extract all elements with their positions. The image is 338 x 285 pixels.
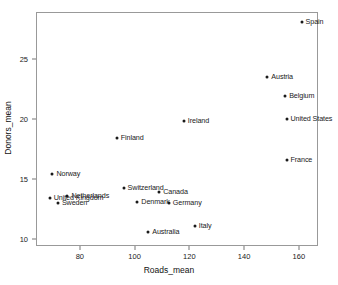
y-tick-label: 25	[12, 54, 28, 63]
x-tick-label: 120	[183, 252, 196, 261]
x-tick-label: 80	[76, 252, 84, 261]
data-point	[51, 173, 54, 176]
data-point-label: Canada	[163, 188, 188, 195]
x-tick-label: 160	[293, 252, 306, 261]
data-point	[122, 187, 125, 190]
y-tick	[32, 238, 36, 239]
data-point-label: Spain	[306, 18, 324, 25]
x-tick-label: 140	[238, 252, 251, 261]
data-point	[147, 230, 150, 233]
x-tick	[189, 246, 190, 250]
data-point	[115, 137, 118, 140]
data-point-label: United States	[291, 115, 333, 122]
data-point	[193, 224, 196, 227]
y-tick-label: 20	[12, 114, 28, 123]
data-point-label: Belgium	[289, 92, 314, 99]
y-tick-label: 15	[12, 174, 28, 183]
x-tick	[298, 246, 299, 250]
data-point-label: Norway	[56, 170, 80, 177]
x-tick	[134, 246, 135, 250]
y-tick	[32, 118, 36, 119]
data-point	[285, 117, 288, 120]
data-point-label: France	[291, 156, 313, 163]
x-tick-label: 100	[128, 252, 141, 261]
x-tick	[79, 246, 80, 250]
data-point-label: Sweden	[62, 199, 87, 206]
data-point-label: Austria	[271, 73, 293, 80]
data-point	[182, 120, 185, 123]
data-point	[56, 201, 59, 204]
plot-area	[36, 12, 318, 246]
scatter-plot-figure: 80100120140160 10152025 SpainAustriaBelg…	[0, 0, 338, 285]
data-point	[266, 75, 269, 78]
data-point	[300, 20, 303, 23]
data-point	[136, 200, 139, 203]
y-tick-label: 10	[12, 234, 28, 243]
data-point	[167, 201, 170, 204]
data-point-label: Germany	[173, 199, 202, 206]
data-point	[284, 95, 287, 98]
y-tick	[32, 58, 36, 59]
data-point-label: Italy	[199, 222, 212, 229]
data-point	[48, 197, 51, 200]
y-axis-title: Donors_mean	[3, 98, 13, 158]
x-axis-title: Roads_mean	[0, 265, 338, 275]
data-point-label: Ireland	[188, 118, 209, 125]
data-point	[285, 158, 288, 161]
y-tick	[32, 178, 36, 179]
data-point-label: Finland	[121, 134, 144, 141]
data-point-label: Denmark	[141, 198, 169, 205]
x-tick	[244, 246, 245, 250]
data-point	[158, 191, 161, 194]
data-point-label: Australia	[152, 228, 179, 235]
